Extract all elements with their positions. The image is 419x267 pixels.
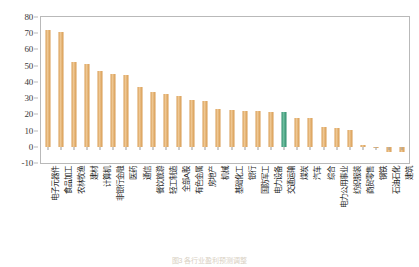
x-axis-tick-mark	[113, 147, 114, 150]
bar-slot	[278, 17, 291, 163]
x-axis-tick-mark	[60, 147, 61, 150]
bar-highlighted	[282, 112, 287, 147]
chart-figure: 80706050403020100-10 电子元器件食品加工农林牧渔建材计算机非…	[0, 0, 419, 267]
x-axis-tick-mark	[73, 147, 74, 150]
x-axis-label-slot: 房地产	[199, 166, 212, 238]
bar-slot	[146, 17, 159, 163]
x-axis-tick-mark	[205, 147, 206, 150]
bar-slot	[94, 17, 107, 163]
bar-slot	[41, 17, 54, 163]
y-axis-tick-mark	[34, 65, 38, 66]
bar-slot	[251, 17, 264, 163]
x-axis-label-slot: 电子元器件	[41, 166, 54, 238]
y-axis-tick-label: 20	[24, 109, 33, 119]
x-axis-tick-mark	[126, 147, 127, 150]
y-axis-tick-mark	[34, 146, 38, 147]
x-axis-tick-mark	[323, 147, 324, 150]
y-axis-tick-mark	[34, 81, 38, 82]
bar	[321, 127, 326, 147]
x-axis-tick-mark	[218, 147, 219, 150]
x-axis-tick-mark	[270, 147, 271, 150]
figure-caption: 图3 各行业盈利预测调整	[0, 255, 419, 265]
x-axis-label-slot: 基础化工	[225, 166, 238, 238]
bar-series	[41, 17, 409, 163]
x-axis-tick-mark	[362, 147, 363, 150]
bar-slot	[120, 17, 133, 163]
bar-slot	[67, 17, 80, 163]
bar-slot	[370, 17, 383, 163]
y-axis-tick-mark	[34, 130, 38, 131]
x-axis-label-slot: 建材	[80, 166, 93, 238]
bar	[229, 110, 234, 147]
x-axis-tick-mark	[310, 147, 311, 150]
y-axis-tick-mark	[34, 17, 38, 18]
x-axis-tick-mark	[336, 147, 337, 150]
x-axis-tick-mark	[389, 147, 390, 150]
y-axis-tick-label: 50	[24, 61, 33, 71]
x-axis-tick-label: 建筑	[406, 166, 414, 180]
bar-slot	[133, 17, 146, 163]
y-axis-tick-label: 30	[24, 93, 33, 103]
bar-slot	[396, 17, 409, 163]
y-axis: 80706050403020100-10	[0, 16, 38, 164]
y-axis-tick-mark	[34, 98, 38, 99]
bar-slot	[54, 17, 67, 163]
x-axis-tick-mark	[257, 147, 258, 150]
bar	[216, 109, 221, 146]
bar	[347, 130, 352, 147]
y-axis-tick-label: 80	[24, 12, 33, 22]
bar-slot	[330, 17, 343, 163]
bar-slot	[383, 17, 396, 163]
x-axis-label-slot: 餐饮旅游	[146, 166, 159, 238]
bar	[176, 96, 181, 147]
x-axis-label-slot: 全部A股	[172, 166, 185, 238]
x-axis-tick-mark	[349, 147, 350, 150]
bar-slot	[225, 17, 238, 163]
x-axis-label-slot: 电力公用事业	[330, 166, 343, 238]
x-axis-label-slot: 机械	[212, 166, 225, 238]
x-axis-label-slot: 电力设备	[264, 166, 277, 238]
x-axis-label-slot: 煤炭	[291, 166, 304, 238]
y-axis-tick-label: 70	[24, 28, 33, 38]
bar-slot	[212, 17, 225, 163]
x-axis-label-slot: 计算机	[94, 166, 107, 238]
bar-slot	[107, 17, 120, 163]
x-axis-tick-mark	[402, 147, 403, 150]
y-axis-tick-label: 0	[29, 142, 33, 152]
bar	[163, 94, 168, 147]
bar	[190, 100, 195, 147]
bar	[84, 64, 89, 147]
x-axis-label-slot: 建筑	[396, 166, 409, 238]
bar-slot	[238, 17, 251, 163]
bar	[58, 32, 63, 147]
x-axis-label-slot: 食品加工	[54, 166, 67, 238]
bar-slot	[356, 17, 369, 163]
x-axis-label-slot: 有色金属	[186, 166, 199, 238]
y-axis-tick-mark	[34, 33, 38, 34]
bar	[334, 128, 339, 147]
x-axis-label-slot: 国防军工	[251, 166, 264, 238]
y-axis-tick-label: -10	[22, 158, 33, 168]
x-axis-tick-mark	[284, 147, 285, 150]
x-axis-label-slot: 农林牧渔	[67, 166, 80, 238]
bar	[137, 87, 142, 147]
bar-slot	[186, 17, 199, 163]
y-axis-tick-mark	[34, 163, 38, 164]
bar-slot	[264, 17, 277, 163]
bar	[124, 75, 129, 146]
x-axis-label-slot: 综合	[317, 166, 330, 238]
x-axis-tick-mark	[86, 147, 87, 150]
bar-slot	[80, 17, 93, 163]
bar-slot	[199, 17, 212, 163]
x-axis-label-slot: 轻工制造	[159, 166, 172, 238]
bar	[111, 74, 116, 147]
bar-slot	[291, 17, 304, 163]
y-axis-tick-mark	[34, 49, 38, 50]
y-axis-tick-mark	[34, 114, 38, 115]
x-axis-label-slot: 钢铁	[370, 166, 383, 238]
y-axis-tick-label: 40	[24, 77, 33, 87]
x-axis-tick-mark	[297, 147, 298, 150]
x-axis-label-slot: 汽车	[304, 166, 317, 238]
x-axis-tick-mark	[165, 147, 166, 150]
bar	[98, 71, 103, 147]
